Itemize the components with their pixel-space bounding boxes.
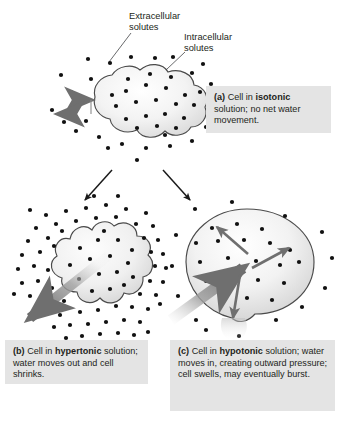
- caption-a-tag: (a): [214, 92, 225, 102]
- cell-membrane-hypotonic: [186, 209, 314, 321]
- burst-plume: [221, 318, 247, 342]
- caption-panel-b: (b) Cell in hypertonic solution; water m…: [5, 340, 148, 384]
- caption-b-tag: (b): [13, 346, 25, 356]
- caption-panel-c: (c) Cell in hypotonic solution; water mo…: [170, 340, 335, 411]
- branch-arrow-to-hypotonic: [163, 170, 190, 200]
- caption-c-lead: Cell in: [189, 346, 219, 356]
- branch-arrows: [85, 170, 190, 200]
- panel-c-hypotonic-graphic: [170, 200, 334, 342]
- panel-b-hypertonic-graphic: [12, 194, 168, 340]
- leader-line-extracellular: [109, 33, 131, 62]
- label-intracellular-line1: Intracellular: [184, 32, 232, 42]
- osmosis-figure: Extracellular solutes Intracellular solu…: [0, 0, 341, 421]
- caption-panel-a: (a) Cell in isotonic solution; no net wa…: [206, 86, 331, 133]
- label-intracellular-line2: solutes: [184, 43, 213, 53]
- caption-b-lead: Cell in: [25, 346, 55, 356]
- label-extracellular-line2: solutes: [129, 22, 158, 32]
- label-extracellular-solutes: Extracellular solutes: [129, 11, 180, 34]
- branch-arrow-to-hypertonic: [85, 170, 112, 200]
- water-arrows-isotonic: [56, 100, 95, 114]
- label-intracellular-solutes: Intracellular solutes: [184, 32, 232, 55]
- caption-a-term: isotonic: [255, 92, 290, 102]
- caption-b-term: hypertonic: [55, 346, 102, 356]
- caption-a-rest: solution; no net water movement.: [214, 104, 300, 126]
- caption-a-lead: Cell in: [225, 92, 255, 102]
- caption-c-term: hypotonic: [219, 346, 262, 356]
- label-extracellular-line1: Extracellular: [129, 11, 180, 21]
- caption-c-tag: (c): [178, 346, 189, 356]
- panel-a-isotonic-graphic: [50, 55, 215, 162]
